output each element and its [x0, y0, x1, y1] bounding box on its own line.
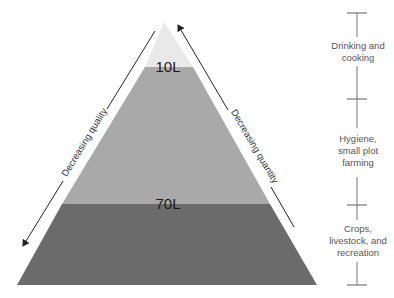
- use-label-line: Crops,: [322, 223, 394, 235]
- use-label-line: livestock, and: [322, 235, 394, 247]
- use-label-line: farming: [322, 157, 394, 169]
- threshold-label-10l: 10L: [138, 58, 198, 75]
- use-label-line: recreation: [322, 247, 394, 259]
- pyramid-tier-bottom: [17, 204, 317, 285]
- use-label-line: Hygiene,: [322, 133, 394, 145]
- use-label-drinking: Drinking and cooking: [322, 40, 394, 64]
- use-label-line: Drinking and: [322, 40, 394, 52]
- use-label-line: small plot: [322, 145, 394, 157]
- use-label-line: cooking: [322, 52, 394, 64]
- use-label-hygiene: Hygiene, small plot farming: [322, 133, 394, 169]
- use-label-crops: Crops, livestock, and recreation: [322, 223, 394, 259]
- threshold-label-70l: 70L: [138, 195, 198, 212]
